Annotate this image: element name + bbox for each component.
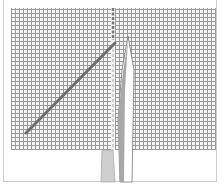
needle-shadow (101, 150, 115, 182)
diagonal-thread (26, 43, 115, 133)
vertical-stitch-line (111, 8, 115, 150)
needlework-diagram (0, 0, 224, 189)
needle-icon (118, 36, 134, 182)
